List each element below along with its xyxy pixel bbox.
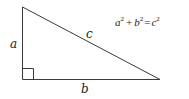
label-c: c [86,27,93,41]
formula-exp-a: 2 [121,15,125,23]
pythagorean-formula: a2+b2=c2 [115,15,160,28]
formula-plus: + [126,16,132,28]
formula-equals: = [144,16,150,28]
right-angle-marker [23,69,34,80]
pythagorean-diagram: a b c a2+b2=c2 [0,0,189,99]
label-b: b [81,82,89,96]
formula-exp-b: 2 [140,15,144,23]
label-a: a [10,37,17,51]
formula-exp-c: 2 [156,15,160,23]
svg-text:a2+b2=c2: a2+b2=c2 [115,15,160,28]
